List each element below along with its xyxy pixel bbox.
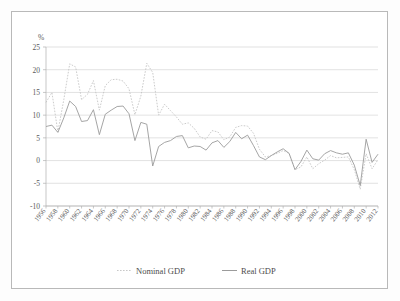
legend-label-real-gdp: Real GDP [241,266,276,276]
series-line-real-gdp [46,101,378,186]
x-tick-label-1998: 1998 [282,207,297,223]
y-tick-label-group: 2520151050-5-10 [30,43,40,211]
x-tick-label-1966: 1966 [92,207,107,223]
x-tick-label-1960: 1960 [56,207,71,223]
y-tick-label--5: -5 [34,179,40,188]
x-tick-label-1996: 1996 [270,207,285,223]
y-tick-label-25: 25 [33,43,41,52]
chart-page: 2520151050-5-10 195619581960196219641966… [0,0,400,301]
x-tick-label-1986: 1986 [211,207,226,223]
x-tick-label-2006: 2006 [329,207,344,223]
y-tick-label-15: 15 [33,88,41,97]
x-tick-label-1994: 1994 [258,207,273,223]
x-tick-label-2010: 2010 [353,207,368,223]
x-tick-label-2012: 2012 [365,207,380,223]
x-tick-label-1958: 1958 [45,207,60,223]
x-tick-label-1962: 1962 [68,207,83,223]
x-tick-label-1978: 1978 [163,207,178,223]
x-tick-label-2004: 2004 [317,207,332,223]
gridline-group [43,47,378,206]
x-tick-label-1992: 1992 [246,207,261,223]
y-axis-unit-label: % [38,33,44,42]
x-tick-label-group: 1956195819601962196419661968197019721974… [33,206,380,223]
x-tick-label-2000: 2000 [294,207,309,223]
x-tick-label-1976: 1976 [151,207,166,223]
x-tick-label-1964: 1964 [80,207,95,223]
x-tick-label-1990: 1990 [234,207,249,223]
legend-label-nominal-gdp: Nominal GDP [136,266,185,276]
x-tick-label-1988: 1988 [222,207,237,223]
x-tick-label-1970: 1970 [116,207,131,223]
x-tick-label-1968: 1968 [104,207,119,223]
y-tick-label-5: 5 [36,134,40,143]
x-tick-label-2002: 2002 [305,207,320,223]
chart-legend: Nominal GDP Real GDP [117,266,276,276]
x-tick-label-1982: 1982 [187,207,202,223]
x-tick-label-1980: 1980 [175,207,190,223]
series-line-nominal-gdp [46,63,378,189]
gdp-growth-line-chart: 2520151050-5-10 195619581960196219641966… [0,0,400,301]
x-tick-label-1972: 1972 [128,207,143,223]
y-tick-label-10: 10 [33,111,41,120]
y-tick-label-20: 20 [33,66,41,75]
x-tick-label-1984: 1984 [199,207,214,223]
x-tick-label-1974: 1974 [139,207,154,223]
axis-group [46,47,378,206]
y-tick-label-0: 0 [36,156,40,165]
x-tick-label-2008: 2008 [341,207,356,223]
